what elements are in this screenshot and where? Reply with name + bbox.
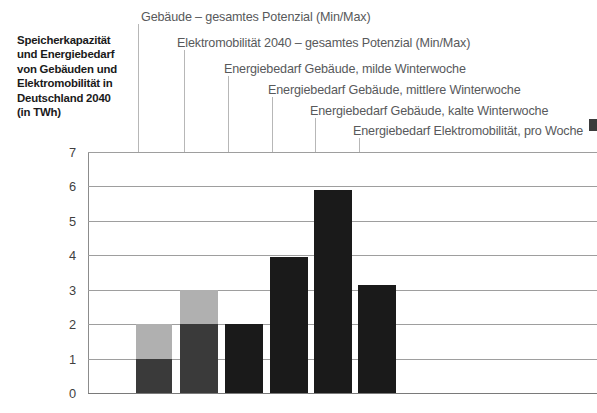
bar-gebaeude-potenzial[interactable]	[136, 324, 172, 393]
y-tick-1: 1	[50, 352, 76, 367]
bar-milde-winterwoche[interactable]	[225, 324, 263, 393]
leader-line-5	[315, 118, 316, 152]
plot-area	[88, 152, 597, 393]
y-tick-7: 7	[50, 145, 76, 160]
bar-elektromobilitaet-potenzial[interactable]	[180, 290, 218, 393]
y-tick-0: 0	[50, 386, 76, 401]
y-tick-3: 3	[50, 283, 76, 298]
leader-line-4	[272, 97, 273, 152]
bar-1-max-segment	[136, 324, 172, 358]
y-tick-5: 5	[50, 214, 76, 229]
chart-figure: Speicherkapazität und Energiebedarf von …	[0, 0, 597, 413]
leader-line-2	[184, 50, 185, 152]
bar-elektromobilitaet-pro-woche[interactable]	[358, 285, 396, 393]
bar-1-min-segment	[136, 359, 172, 393]
callout-label-6: Energiebedarf Elektromobilität, pro Woch…	[353, 124, 597, 138]
leader-line-1	[138, 24, 139, 152]
gridline-7	[88, 152, 597, 153]
y-tick-2: 2	[50, 317, 76, 332]
chart-legend-callouts: Gebäude – gesamtes Potenzial (Min/Max) E…	[0, 0, 597, 150]
bar-2-max-segment	[180, 290, 218, 324]
x-axis-line	[88, 393, 597, 394]
bar-mittlere-winterwoche[interactable]	[270, 257, 308, 393]
bar-kalte-winterwoche[interactable]	[314, 190, 352, 393]
gridline-6	[88, 186, 597, 187]
callout-label-2: Elektromobilität 2040 – gesamtes Potenzi…	[177, 36, 470, 50]
callout-label-1: Gebäude – gesamtes Potenzial (Min/Max)	[141, 10, 371, 24]
callout-label-5: Energiebedarf Gebäude, kalte Winterwoche	[310, 104, 548, 118]
callout-label-4: Energiebedarf Gebäude, mittlere Winterwo…	[268, 83, 521, 97]
callout-label-3: Energiebedarf Gebäude, milde Winterwoche	[224, 62, 466, 76]
label-clip-marker	[589, 119, 597, 131]
bar-2-min-segment	[180, 324, 218, 393]
y-tick-6: 6	[50, 179, 76, 194]
leader-line-6	[359, 138, 360, 152]
leader-line-3	[228, 76, 229, 152]
y-tick-4: 4	[50, 248, 76, 263]
